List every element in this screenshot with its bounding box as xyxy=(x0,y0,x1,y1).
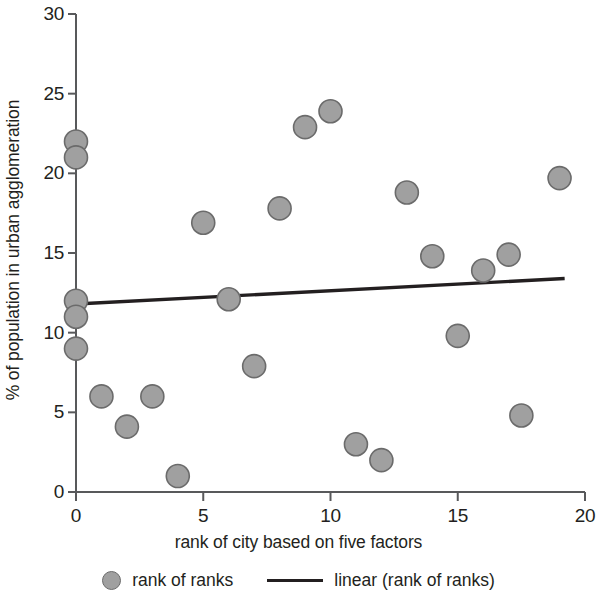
data-point xyxy=(166,465,189,488)
y-tick-label: 10 xyxy=(20,323,64,342)
legend-marker-line-icon xyxy=(267,579,323,582)
data-point xyxy=(217,288,240,311)
y-tick-label: 15 xyxy=(20,243,64,262)
data-point xyxy=(497,243,520,266)
y-tick-label: 25 xyxy=(20,84,64,103)
data-point xyxy=(294,116,317,139)
x-tick-label: 10 xyxy=(309,506,353,525)
plot-area: 051015202530 05101520 xyxy=(0,0,597,609)
legend-entry-trendline: linear (rank of ranks) xyxy=(267,570,494,591)
data-point xyxy=(421,245,444,268)
data-point xyxy=(510,404,533,427)
trendline-segment xyxy=(76,278,565,303)
data-points-group xyxy=(65,100,572,488)
data-point xyxy=(141,385,164,408)
data-point xyxy=(65,305,88,328)
data-point xyxy=(65,146,88,169)
data-point xyxy=(472,259,495,282)
chart-legend: rank of ranks linear (rank of ranks) xyxy=(0,570,597,591)
data-point xyxy=(344,433,367,456)
y-tick-label: 0 xyxy=(20,482,64,501)
data-point xyxy=(446,324,469,347)
data-point xyxy=(115,415,138,438)
data-point xyxy=(90,385,113,408)
x-tick-label: 15 xyxy=(436,506,480,525)
data-point xyxy=(548,167,571,190)
data-point xyxy=(319,100,342,123)
y-tick-label: 30 xyxy=(20,4,64,23)
data-point xyxy=(268,197,291,220)
legend-label-trendline: linear (rank of ranks) xyxy=(334,570,494,591)
trendline xyxy=(76,278,565,303)
legend-label-points: rank of ranks xyxy=(132,570,233,591)
y-tick-label: 5 xyxy=(20,402,64,421)
x-tick-label: 20 xyxy=(563,506,597,525)
data-point xyxy=(65,337,88,360)
data-point xyxy=(192,211,215,234)
legend-entry-points: rank of ranks xyxy=(102,570,233,591)
data-point xyxy=(370,449,393,472)
scatter-chart-figure: % of population in urban agglomeration 0… xyxy=(0,0,597,609)
x-tick-label: 0 xyxy=(54,506,98,525)
data-point xyxy=(395,181,418,204)
legend-marker-circle-icon xyxy=(102,571,121,590)
x-tick-label: 5 xyxy=(181,506,225,525)
data-point xyxy=(243,355,266,378)
y-tick-label: 20 xyxy=(20,163,64,182)
x-axis-title: rank of city based on five factors xyxy=(0,532,597,553)
